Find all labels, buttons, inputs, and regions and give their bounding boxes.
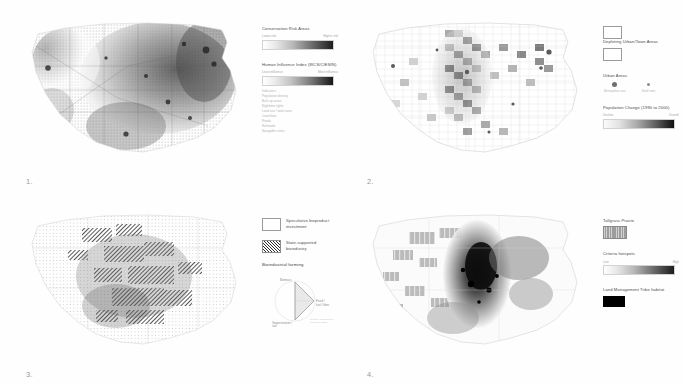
hatch-swatch-icon [262, 240, 281, 253]
urban-dot-large-item: Metropolitan core [604, 82, 626, 93]
hollow-swatch-icon [603, 26, 622, 39]
urban-dot-small-item: Small town [642, 82, 656, 93]
bioindustry-investment-map [8, 198, 256, 370]
population-change-map [349, 6, 597, 178]
legend-title: Human Influence Index (WCS/CIESIN) [262, 62, 338, 68]
legend-panel-2: Depleting Urban/Town Areas Urban Areas M… [603, 26, 679, 141]
legend-block-urban-areas: Urban Areas Metropolitan core Small town [603, 73, 679, 93]
ramp-min-label: Least influence [262, 70, 283, 74]
hollow-swatch-icon [262, 218, 281, 231]
legend-row-speculative-investment: Speculative bioproduct investment [262, 218, 338, 231]
color-ramp [603, 265, 675, 275]
svg-text:fuel / fiber: fuel / fiber [316, 303, 329, 307]
figure-sheet: Conservation Risk Areas Lower risk Highe… [0, 0, 683, 385]
ramp-max-label: Higher risk [323, 34, 338, 38]
panel-number: 3. [26, 370, 33, 379]
tallgrass-criteria-map [349, 198, 597, 370]
legend-title: Bioindustrial farming [262, 262, 338, 268]
legend-block-land-management-tribe-habitat: Land Management Tribe habitat [603, 287, 679, 306]
urban-dot-symbols: Metropolitan core Small town [604, 82, 679, 93]
legend-title: Urban Areas [603, 73, 679, 79]
ramp-min-label: Low [603, 260, 609, 264]
panel-number: 2. [367, 177, 374, 186]
hollow-swatch-icon-2 [603, 48, 622, 61]
legend-block-human-influence-index: Human Influence Index (WCS/CIESIN) Least… [262, 62, 338, 134]
indicator-list: Indicators: Population density Built-up … [262, 89, 338, 134]
ramp-min-label: Lower risk [262, 34, 276, 38]
ramp-end-labels: Low High [603, 260, 679, 264]
black-swatch-icon [603, 296, 625, 307]
panel-1: Conservation Risk Areas Lower risk Highe… [0, 0, 341, 192]
legend-title: Land Management Tribe habitat [603, 287, 679, 293]
ramp-max-label: Growth [669, 113, 679, 117]
legend-swatch-row [603, 26, 679, 39]
urban-dot-caption: Metropolitan core [604, 89, 626, 93]
legend-title: Conservation Risk Areas [262, 26, 338, 32]
panel-4: Tallgrass Prairie Criteria hotspots Low … [341, 192, 683, 385]
legend-label: Speculative bioproduct investment [286, 218, 338, 230]
ramp-end-labels: Least influence Most influence [262, 70, 338, 74]
color-ramp [262, 76, 334, 86]
ramp-max-label: High [673, 260, 679, 264]
panel-3: Speculative bioproduct investment State-… [0, 192, 341, 385]
ramp-end-labels: Lower risk Higher risk [262, 34, 338, 38]
legend-title: Population Change (1990 to 2000) [603, 105, 679, 111]
indicator-item: Navigable rivers [262, 129, 338, 134]
gray-swatch-icon [603, 226, 627, 239]
conservation-risk-map [8, 6, 256, 178]
legend-panel-3: Speculative bioproduct investment State-… [262, 218, 338, 339]
color-ramp [262, 40, 334, 50]
legend-title: Criteria hotspots [603, 251, 679, 257]
legend-panel-1: Conservation Risk Areas Lower risk Highe… [262, 26, 338, 146]
circle-small-icon [647, 83, 650, 86]
urban-dot-caption: Small town [642, 89, 656, 93]
panel-number: 4. [367, 370, 374, 379]
circle-large-icon [612, 82, 617, 87]
svg-text:soil: soil [272, 324, 277, 327]
ramp-end-labels: Decline Growth [603, 113, 679, 117]
ternary-note: Relative allocation of cropland output [310, 318, 336, 326]
color-ramp [603, 119, 675, 129]
panel-number: 1. [26, 177, 33, 186]
legend-label: State-supported bioindustry [286, 240, 338, 252]
ramp-min-label: Decline [603, 113, 613, 117]
legend-row-state-supported-bioindustry: State-supported bioindustry [262, 240, 338, 253]
legend-block-conservation-risk: Conservation Risk Areas Lower risk Highe… [262, 26, 338, 50]
ramp-max-label: Most influence [318, 70, 338, 74]
svg-text:Biomass: Biomass [280, 278, 292, 282]
panel-2: Depleting Urban/Town Areas Urban Areas M… [341, 0, 683, 192]
legend-block-population-change: Population Change (1990 to 2000) Decline… [603, 105, 679, 129]
legend-block-criteria-hotspots: Criteria hotspots Low High [603, 251, 679, 275]
legend-title: Tallgrass Prairie [603, 218, 679, 224]
legend-block-tallgrass-prairie: Tallgrass Prairie [603, 218, 679, 239]
legend-panel-4: Tallgrass Prairie Criteria hotspots Low … [603, 218, 679, 319]
legend-title: Depleting Urban/Town Areas [603, 39, 679, 45]
legend-block-bioindustrial-farming: Bioindustrial farming Biomass Feed / fue… [262, 262, 338, 327]
legend-block-depleting-urban-areas: Depleting Urban/Town Areas [603, 26, 679, 61]
ternary-diagram: Biomass Feed / fuel / fiber Sequestratio… [262, 271, 336, 327]
